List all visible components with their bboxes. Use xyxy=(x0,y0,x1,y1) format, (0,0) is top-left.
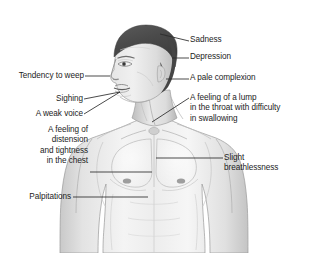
label-chest-distension-line-1: A feeling of xyxy=(40,125,88,135)
label-lump-in-throat-line-1: A feeling of a lump xyxy=(190,93,280,103)
label-palpitations: Palpitations xyxy=(29,192,71,202)
label-chest-distension-line-2: distension xyxy=(40,135,88,145)
torso-group xyxy=(60,116,248,253)
symptom-diagram: Sadness Depression A pale complexion A f… xyxy=(0,0,309,253)
pupil xyxy=(123,63,125,65)
label-lump-in-throat: A feeling of a lump in the throat with d… xyxy=(190,93,280,124)
label-chest-distension-line-3: and tightness xyxy=(40,146,88,156)
label-lump-in-throat-line-3: in swallowing xyxy=(190,114,280,124)
label-sighing: Sighing xyxy=(56,94,83,104)
label-slight-breathlessness-line-1: Slight xyxy=(224,153,278,163)
label-weak-voice-line-1: A weak voice xyxy=(36,109,83,119)
label-chest-distension: A feeling of distension and tightness in… xyxy=(40,125,88,166)
label-pale-complexion-line-1: A pale complexion xyxy=(190,73,256,83)
label-depression: Depression xyxy=(190,52,231,62)
label-depression-line-1: Depression xyxy=(190,52,231,62)
nipple-right xyxy=(177,178,185,183)
label-chest-distension-line-4: in the chest xyxy=(40,156,88,166)
label-sighing-line-1: Sighing xyxy=(56,94,83,104)
label-slight-breathlessness: Slight breathlessness xyxy=(224,153,278,174)
label-sadness: Sadness xyxy=(190,35,222,45)
label-tendency-to-weep-line-1: Tendency to weep xyxy=(19,71,84,81)
nipple-left xyxy=(123,178,131,183)
label-weak-voice: A weak voice xyxy=(36,109,83,119)
label-slight-breathlessness-line-2: breathlessness xyxy=(224,163,278,173)
label-tendency-to-weep: Tendency to weep xyxy=(19,71,84,81)
sternal-notch xyxy=(149,127,159,134)
label-sadness-line-1: Sadness xyxy=(190,35,222,45)
label-palpitations-line-1: Palpitations xyxy=(29,192,71,202)
label-pale-complexion: A pale complexion xyxy=(190,73,256,83)
label-lump-in-throat-line-2: in the throat with difficulty xyxy=(190,103,280,113)
